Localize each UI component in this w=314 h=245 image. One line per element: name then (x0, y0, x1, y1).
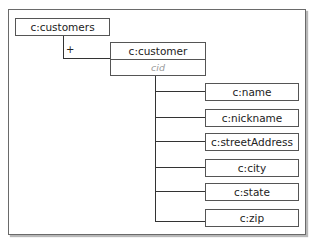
multiplicity-plus-icon: + (66, 44, 74, 55)
connector-children-trunk (155, 76, 156, 222)
branch-line (155, 91, 205, 92)
child-element-name: c:name (205, 83, 299, 101)
child-element-city: c:city (205, 159, 299, 177)
child-element-label: c:name (232, 86, 271, 98)
branch-line (155, 191, 205, 192)
child-element-nickname: c:nickname (205, 109, 299, 127)
child-element-label: c:zip (240, 212, 264, 224)
element-customer: c:customer cid (110, 42, 206, 76)
branch-line (155, 117, 205, 118)
child-element-zip: c:zip (205, 209, 299, 227)
child-element-label: c:city (238, 162, 266, 174)
element-customer-label: c:customer (111, 43, 205, 60)
child-element-state: c:state (205, 183, 299, 201)
child-element-streetaddress: c:streetAddress (205, 133, 299, 151)
branch-line (155, 221, 205, 222)
root-element-customers: c:customers (15, 18, 110, 36)
branch-line (155, 167, 205, 168)
branch-line (155, 141, 205, 142)
child-element-label: c:nickname (222, 112, 283, 124)
root-element-label: c:customers (30, 21, 94, 33)
connector-root-horizontal (63, 58, 110, 59)
child-element-label: c:state (234, 186, 270, 198)
child-element-label: c:streetAddress (211, 136, 293, 148)
connector-root-vertical (63, 36, 64, 59)
element-customer-attribute: cid (111, 60, 205, 75)
